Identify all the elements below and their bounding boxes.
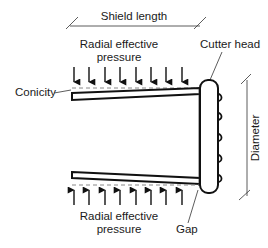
conicity-leader <box>54 90 71 93</box>
shield-length-dimension: Shield length <box>66 10 206 29</box>
radial-pressure-top-label-line1: Radial effective <box>80 38 158 50</box>
radial-pressure-bottom-label-line2: pressure <box>97 223 142 235</box>
radial-pressure-bottom-label-line1: Radial effective <box>80 210 158 222</box>
gap-label: Gap <box>176 223 198 235</box>
diameter-label: Diameter <box>249 115 261 162</box>
gap-leader <box>188 190 198 223</box>
diameter-dimension: Diameter <box>239 74 261 200</box>
shield-length-label: Shield length <box>101 10 168 22</box>
conicity-label: Conicity <box>15 86 56 98</box>
cutter-head-leader <box>210 52 222 80</box>
top-shield-plate <box>72 88 200 100</box>
radial-pressure-top-label-line2: pressure <box>97 51 142 63</box>
shield-diagram: Shield length Radial effective pressure … <box>0 0 268 248</box>
bottom-pressure-arrows <box>74 190 182 205</box>
cutter-head <box>199 80 222 193</box>
top-pressure-arrows <box>74 67 182 82</box>
bottom-shield-plate <box>72 172 200 184</box>
cutter-head-label: Cutter head <box>200 38 260 50</box>
